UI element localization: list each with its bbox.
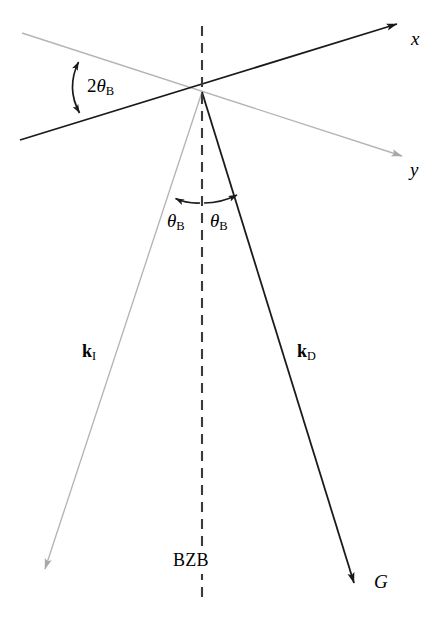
k-incident-line: [45, 92, 202, 569]
arc-theta-b-right: [204, 195, 237, 203]
k-diffracted-label: kD: [297, 342, 316, 362]
k-incident-symbol: k: [82, 341, 92, 361]
diagram-canvas: x y 2θB θB θB kI kD BZB G: [0, 0, 441, 619]
angle-two-theta-b-subscript: B: [106, 84, 114, 98]
y-axis-line: [22, 33, 402, 156]
x-axis-line: [20, 24, 397, 140]
k-diffracted-line: [202, 92, 354, 583]
angle-theta-b-left-subscript: B: [176, 219, 184, 233]
angle-two-theta-b-coefficient: 2: [87, 75, 97, 96]
angle-theta-b-right-label: θB: [210, 211, 228, 233]
angle-theta-b-right-symbol: θ: [210, 210, 219, 231]
k-diffracted-subscript: D: [307, 349, 316, 363]
angle-theta-b-right-subscript: B: [219, 219, 227, 233]
k-incident-subscript: I: [92, 349, 96, 363]
arc-two-theta-b: [72, 62, 79, 113]
k-diffracted-symbol: k: [297, 341, 307, 361]
angle-two-theta-b-label: 2θB: [87, 76, 114, 98]
reciprocal-lattice-vector-label: G: [374, 572, 388, 591]
diagram-vector-graphics: [0, 0, 441, 619]
y-axis-label: y: [410, 160, 418, 179]
x-axis-label: x: [411, 29, 419, 48]
k-incident-label: kI: [82, 342, 96, 362]
angle-theta-b-left-symbol: θ: [167, 210, 176, 231]
arc-theta-b-left: [176, 199, 201, 204]
angle-theta-b-left-label: θB: [167, 211, 185, 233]
bzb-label: BZB: [173, 551, 209, 569]
angle-two-theta-b-symbol: θ: [97, 75, 106, 96]
